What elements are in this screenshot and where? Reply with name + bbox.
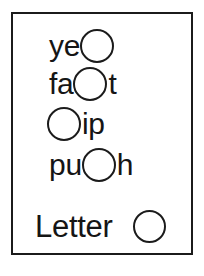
circle-blank-icon[interactable] bbox=[133, 210, 166, 243]
legend-label: Letter bbox=[35, 211, 112, 242]
word-suffix-3: ip bbox=[82, 109, 105, 139]
circle-blank-icon[interactable] bbox=[73, 67, 107, 101]
word-prefix-1: ye bbox=[49, 31, 80, 61]
word-row-1: ye bbox=[49, 29, 114, 63]
word-prefix-2: fa bbox=[49, 69, 73, 99]
word-row-3: ip bbox=[47, 107, 105, 141]
word-prefix-4: pu bbox=[49, 150, 82, 180]
circle-blank-icon[interactable] bbox=[80, 29, 114, 63]
word-row-2: fa t bbox=[49, 67, 116, 101]
circle-blank-icon[interactable] bbox=[47, 107, 81, 141]
legend-row: Letter bbox=[35, 210, 166, 243]
word-suffix-2: t bbox=[108, 69, 116, 99]
circle-blank-icon[interactable] bbox=[82, 148, 116, 182]
word-row-4: pu h bbox=[49, 148, 133, 182]
worksheet-card: ye fa t ip pu h Letter bbox=[11, 12, 193, 255]
word-suffix-4: h bbox=[117, 150, 133, 180]
